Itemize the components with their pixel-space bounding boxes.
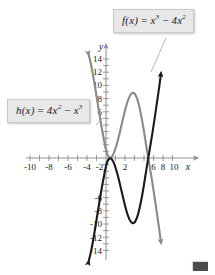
label-f-term1-exp: 3 xyxy=(155,13,159,21)
label-h-operator: − xyxy=(64,104,70,116)
x-axis-label: x xyxy=(185,161,191,172)
x-tick-label: 2 xyxy=(123,162,128,172)
function-graph-figure: -10 -8 -6 -4 -2 2 6 8 10 14 12 10 8 6 -6… xyxy=(0,0,215,275)
label-f-equals: = xyxy=(141,14,147,26)
label-h-term2-exp: 3 xyxy=(79,103,83,111)
x-tick-label: -8 xyxy=(45,162,53,172)
x-tick-labels: -10 -8 -6 -4 -2 2 6 8 10 xyxy=(24,162,179,172)
label-h-arg: (x) xyxy=(22,104,35,116)
x-tick-label: -2 xyxy=(96,162,104,172)
function-label-f: f(x) = x3 − 4x2 xyxy=(113,9,194,33)
x-tick-label: -6 xyxy=(64,162,72,172)
x-tick-label: -10 xyxy=(24,162,36,172)
axes-group: -10 -8 -6 -4 -2 2 6 8 10 14 12 10 8 6 -6… xyxy=(24,41,196,260)
x-tick-label: 6 xyxy=(151,162,156,172)
x-tick-label: 8 xyxy=(161,162,166,172)
corner-artifact xyxy=(193,262,208,271)
y-tick-label: -12 xyxy=(90,233,102,243)
function-label-h: h(x) = 4x2 − x3 xyxy=(7,99,90,123)
y-axis-label: y xyxy=(98,41,104,52)
label-f-operator: − xyxy=(162,14,168,26)
label-f-term2-exp: 2 xyxy=(182,13,186,21)
label-h-term1-exp: 2 xyxy=(58,103,62,111)
y-tick-label: 14 xyxy=(93,54,103,64)
x-tick-label: -4 xyxy=(83,162,91,172)
leader-line-f xyxy=(151,38,166,72)
y-tick-label: 12 xyxy=(93,67,102,77)
label-h-equals: = xyxy=(37,104,43,116)
x-tick-label: 10 xyxy=(170,162,180,172)
label-f-arg: (x) xyxy=(125,14,138,26)
